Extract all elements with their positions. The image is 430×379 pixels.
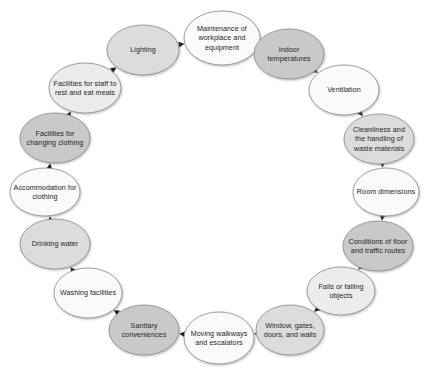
cycle-arrow xyxy=(178,42,184,48)
node-falls[interactable] xyxy=(307,267,375,315)
node-ventilation[interactable] xyxy=(309,65,379,115)
node-layer xyxy=(10,11,419,364)
node-washing[interactable] xyxy=(54,268,122,318)
node-accommodation-clothing[interactable] xyxy=(10,168,80,216)
node-window-gates[interactable] xyxy=(256,305,324,355)
node-maintenance[interactable] xyxy=(184,11,260,65)
node-facilities-rest[interactable] xyxy=(49,63,121,113)
node-moving-walkways[interactable] xyxy=(184,312,254,364)
node-facilities-changing[interactable] xyxy=(20,113,90,163)
node-sanitary[interactable] xyxy=(109,305,179,355)
diagram-svg-layer xyxy=(0,0,430,379)
cycle-diagram: Maintenance of workplace and equipmentIn… xyxy=(0,0,430,379)
node-drinking-water[interactable] xyxy=(20,219,90,269)
node-conditions-floor[interactable] xyxy=(343,221,413,271)
node-room-dimensions[interactable] xyxy=(353,168,419,216)
node-lighting[interactable] xyxy=(107,25,179,75)
node-cleanliness[interactable] xyxy=(344,114,414,164)
node-indoor-temperatures[interactable] xyxy=(254,29,324,79)
